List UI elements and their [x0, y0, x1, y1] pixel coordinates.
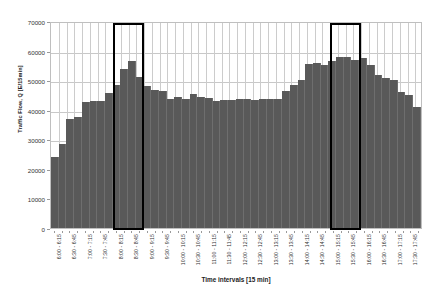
- bar: [220, 100, 228, 228]
- x-axis-tick-mark: [271, 231, 272, 233]
- y-axis-tick-label: 50000: [28, 78, 45, 85]
- x-axis-slot: 10:30 - 10:45: [190, 231, 198, 277]
- x-axis-tick-mark: [224, 231, 225, 233]
- x-axis-tick-mark: [325, 231, 326, 233]
- y-axis-tick-label: 20000: [28, 166, 45, 173]
- x-axis-tick-mark: [162, 231, 163, 233]
- bar: [413, 107, 421, 228]
- x-axis-tick-mark: [85, 231, 86, 233]
- x-axis-slot: 9:00 - 9:15: [143, 231, 151, 277]
- x-axis-tick-mark: [403, 231, 404, 233]
- x-axis-slot: [244, 231, 252, 277]
- bar: [105, 93, 113, 228]
- x-axis-tick-mark: [286, 231, 287, 233]
- x-axis-slot: 17:00 - 17:15: [391, 231, 399, 277]
- x-axis-slot: 13:30 - 13:45: [283, 231, 291, 277]
- bar: [143, 86, 151, 228]
- bar: [159, 91, 167, 228]
- y-axis-tick-label: 10000: [28, 196, 45, 203]
- bar: [267, 99, 275, 228]
- x-axis-slot: 6:30 - 6:45: [66, 231, 74, 277]
- x-axis-tick-mark: [186, 231, 187, 233]
- x-axis-tick-mark: [209, 231, 210, 233]
- bar: [251, 100, 259, 228]
- bar: [90, 101, 98, 228]
- x-axis-tick-mark: [201, 231, 202, 233]
- bar: [305, 64, 313, 228]
- x-axis-slot: 7:30 - 7:45: [97, 231, 105, 277]
- bar: [82, 102, 90, 228]
- x-axis-slot: [73, 231, 81, 277]
- x-axis-tick-mark: [131, 231, 132, 233]
- x-axis-slot: 7:00 - 7:15: [81, 231, 89, 277]
- bar: [405, 95, 413, 228]
- x-axis-tick-mark: [364, 231, 365, 233]
- x-axis-tick-mark: [341, 231, 342, 233]
- x-axis-tick-mark: [279, 231, 280, 233]
- x-axis-tick-mark: [310, 231, 311, 233]
- x-axis-slot: [151, 231, 159, 277]
- bar: [205, 98, 213, 228]
- bar: [367, 65, 375, 228]
- x-axis-slot: 15:30 - 15:45: [345, 231, 353, 277]
- x-axis-title: Time intervals [15 min]: [50, 276, 422, 283]
- x-axis-tick-mark: [248, 231, 249, 233]
- y-axis-tick-label: 60000: [28, 48, 45, 55]
- x-axis-tick-mark: [139, 231, 140, 233]
- x-axis-slot: [104, 231, 112, 277]
- bar: [190, 94, 198, 228]
- x-axis-slot: 12:00 - 12:15: [236, 231, 244, 277]
- x-axis-slot: 14:30 - 14:45: [314, 231, 322, 277]
- bar: [59, 144, 67, 228]
- y-axis-tick-mark: [47, 229, 50, 230]
- x-axis-tick-mark: [317, 231, 318, 233]
- x-axis-tick-mark: [387, 231, 388, 233]
- x-axis-slot: 13:00 - 13:15: [267, 231, 275, 277]
- x-axis-slot: [290, 231, 298, 277]
- bar: [282, 91, 290, 228]
- x-axis-tick-mark: [232, 231, 233, 233]
- bar: [236, 99, 244, 228]
- bar: [66, 119, 74, 228]
- bar: [259, 99, 267, 228]
- bar: [120, 69, 128, 228]
- x-axis-tick-mark: [217, 231, 218, 233]
- x-axis-slot: 16:00 - 16:15: [360, 231, 368, 277]
- bar: [290, 85, 298, 229]
- bar: [321, 65, 329, 228]
- x-axis-tick-mark: [263, 231, 264, 233]
- bar: [390, 80, 398, 228]
- x-axis-slot: [306, 231, 314, 277]
- bar: [274, 99, 282, 228]
- bar: [97, 101, 105, 228]
- x-axis-slot: 17:30 - 17:45: [407, 231, 415, 277]
- bar: [151, 90, 159, 228]
- x-axis-slot: [337, 231, 345, 277]
- x-axis-tick-mark: [255, 231, 256, 233]
- x-axis-slot: 14:00 - 14:15: [298, 231, 306, 277]
- x-axis-tick-mark: [418, 231, 419, 233]
- x-axis-slot: 6:00 - 6:15: [50, 231, 58, 277]
- bar: [382, 78, 390, 228]
- bar: [113, 85, 121, 228]
- bar: [359, 58, 367, 228]
- bar: [298, 80, 306, 228]
- x-axis-tick-mark: [155, 231, 156, 233]
- bar-series: [51, 23, 421, 228]
- bar: [136, 77, 144, 228]
- y-axis: 010000200003000040000500006000070000: [0, 0, 50, 294]
- x-axis-tick-mark: [69, 231, 70, 233]
- traffic-flow-bar-chart: 010000200003000040000500006000070000 Tra…: [0, 0, 431, 294]
- x-axis-slot: 16:30 - 16:45: [376, 231, 384, 277]
- x-axis-tick-mark: [333, 231, 334, 233]
- x-axis-tick-mark: [170, 231, 171, 233]
- x-axis-slot: [259, 231, 267, 277]
- x-axis-slot: [352, 231, 360, 277]
- x-axis-slot: [58, 231, 66, 277]
- x-axis-tick-mark: [356, 231, 357, 233]
- bar: [213, 101, 221, 228]
- x-axis-slot: [166, 231, 174, 277]
- y-axis-tick-label: 70000: [28, 19, 45, 26]
- x-axis-slot: [399, 231, 407, 277]
- bar: [375, 75, 383, 228]
